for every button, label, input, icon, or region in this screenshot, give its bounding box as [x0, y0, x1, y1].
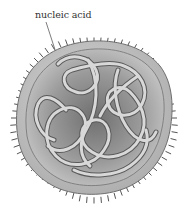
virus-illustration — [0, 0, 187, 207]
virus-diagram: nucleic acid — [0, 0, 187, 207]
